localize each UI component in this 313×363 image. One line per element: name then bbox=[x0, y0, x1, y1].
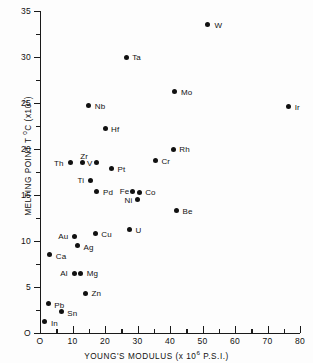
y-tick-major bbox=[34, 287, 41, 288]
data-point-label: Be bbox=[183, 207, 193, 216]
data-point-label: Cr bbox=[161, 157, 170, 166]
x-tick-label: 30 bbox=[126, 336, 150, 346]
x-axis-title: YOUNG'S MODULUS (x 106 P.S.I.) bbox=[0, 349, 313, 361]
data-point-label: Nb bbox=[95, 102, 106, 111]
data-point bbox=[205, 22, 210, 27]
y-tick-major bbox=[34, 333, 41, 334]
y-tick-major bbox=[34, 11, 41, 12]
data-point-label: U bbox=[135, 226, 141, 235]
y-tick-minor bbox=[36, 310, 40, 311]
data-point bbox=[78, 271, 83, 276]
data-point bbox=[153, 158, 158, 163]
y-tick-minor bbox=[36, 264, 40, 265]
y-tick-major bbox=[34, 149, 41, 150]
data-point bbox=[46, 301, 51, 306]
x-tick-label: 10 bbox=[61, 336, 85, 346]
y-axis-line bbox=[40, 11, 41, 333]
data-point-label: Ag bbox=[83, 243, 93, 252]
data-point-label: Al bbox=[60, 269, 68, 278]
data-point-label: Pb bbox=[54, 301, 64, 310]
data-point-label: In bbox=[51, 319, 58, 328]
x-tick-major bbox=[73, 326, 74, 333]
data-point bbox=[59, 309, 64, 314]
x-tick-label: 50 bbox=[191, 336, 215, 346]
y-axis-title: MELTING POINT T oC (x102) bbox=[21, 41, 33, 271]
data-point bbox=[47, 252, 52, 257]
x-tick-major bbox=[105, 326, 106, 333]
x-tick-minor bbox=[56, 329, 57, 333]
y-tick-minor bbox=[36, 218, 40, 219]
data-point bbox=[80, 160, 85, 165]
data-point bbox=[103, 126, 108, 131]
data-point-label: V bbox=[87, 159, 93, 168]
data-point-label: Ca bbox=[56, 252, 67, 261]
y-tick-label: 35 bbox=[9, 6, 31, 16]
data-point bbox=[109, 166, 114, 171]
x-tick-major bbox=[268, 326, 269, 333]
data-point-label: Cu bbox=[101, 230, 112, 239]
data-point bbox=[72, 234, 77, 239]
data-point bbox=[72, 271, 77, 276]
data-point-label: Hf bbox=[111, 125, 119, 134]
data-point-label: Pt bbox=[118, 165, 126, 174]
x-tick-minor bbox=[154, 329, 155, 333]
x-tick-major bbox=[40, 326, 41, 333]
data-point bbox=[130, 189, 135, 194]
data-point-label: Zn bbox=[92, 289, 102, 298]
y-tick-major bbox=[34, 103, 41, 104]
data-point-label: Mg bbox=[87, 269, 99, 278]
data-point bbox=[94, 160, 99, 165]
y-tick-major bbox=[34, 241, 41, 242]
data-point bbox=[88, 178, 93, 183]
data-point bbox=[86, 103, 91, 108]
data-point bbox=[68, 160, 73, 165]
data-point bbox=[83, 291, 88, 296]
y-tick-minor bbox=[36, 172, 40, 173]
y-tick-minor bbox=[36, 126, 40, 127]
x-tick-label: 20 bbox=[93, 336, 117, 346]
data-point bbox=[171, 147, 176, 152]
data-point bbox=[135, 197, 140, 202]
x-tick-label: 70 bbox=[256, 336, 280, 346]
x-tick-minor bbox=[89, 329, 90, 333]
y-tick-label: 5 bbox=[9, 282, 31, 292]
x-tick-minor bbox=[186, 329, 187, 333]
data-point bbox=[127, 227, 132, 232]
data-point-label: W bbox=[214, 21, 222, 30]
data-point-label: Rh bbox=[179, 145, 190, 154]
data-point bbox=[75, 243, 80, 248]
data-point-label: Sn bbox=[67, 309, 77, 318]
x-tick-label: 80 bbox=[288, 336, 312, 346]
data-point bbox=[174, 208, 179, 213]
data-point bbox=[124, 55, 129, 60]
x-tick-major bbox=[138, 326, 139, 333]
x-tick-minor bbox=[284, 329, 285, 333]
y-tick-major bbox=[34, 195, 41, 196]
y-tick-minor bbox=[36, 34, 40, 35]
data-point-label: Au bbox=[58, 232, 68, 241]
data-point-label: Th bbox=[54, 159, 64, 168]
data-point-label: Ta bbox=[132, 53, 141, 62]
data-point-label: Mo bbox=[181, 88, 193, 97]
x-tick-label: O bbox=[28, 336, 52, 346]
scatter-chart: O5101520253035O1020304050607080 WTaIrMoN… bbox=[0, 0, 313, 363]
x-tick-label: 60 bbox=[223, 336, 247, 346]
data-point bbox=[286, 104, 291, 109]
data-point bbox=[93, 231, 98, 236]
data-point-label: Ti bbox=[77, 176, 84, 185]
x-tick-minor bbox=[251, 329, 252, 333]
x-tick-major bbox=[203, 326, 204, 333]
data-point-label: Co bbox=[145, 188, 156, 197]
data-point-label: Ir bbox=[295, 103, 300, 112]
y-tick-major bbox=[34, 57, 41, 58]
x-tick-major bbox=[300, 326, 301, 333]
data-point-label: Ni bbox=[125, 196, 133, 205]
x-tick-major bbox=[170, 326, 171, 333]
data-point bbox=[94, 189, 99, 194]
x-tick-minor bbox=[121, 329, 122, 333]
data-point-label: Pd bbox=[103, 188, 113, 197]
data-point bbox=[42, 319, 47, 324]
data-point bbox=[137, 190, 142, 195]
x-tick-major bbox=[235, 326, 236, 333]
data-point bbox=[172, 89, 177, 94]
